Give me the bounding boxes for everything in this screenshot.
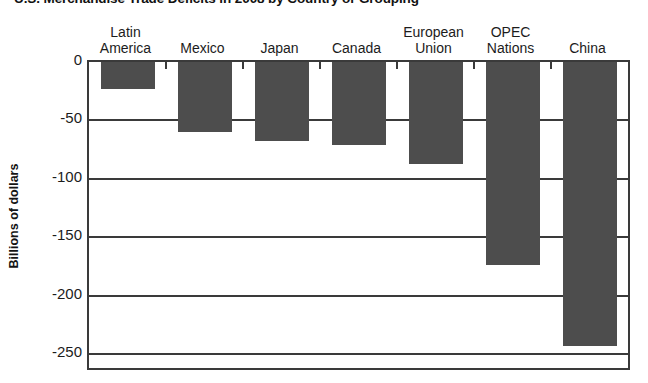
x-axis-tick (242, 62, 244, 69)
plot-area (87, 60, 630, 370)
y-tick-label: -50 (10, 110, 82, 125)
y-tick-label: 0 (10, 52, 82, 67)
category-label: Mexico (164, 41, 241, 57)
bar (255, 62, 309, 141)
bar (332, 62, 386, 145)
y-axis-tick-labels: 0-50-100-150-200-250 (8, 0, 82, 383)
x-axis-tick (473, 62, 475, 69)
x-axis-tick (319, 62, 321, 69)
category-label: China (549, 41, 626, 57)
y-tick-label: -250 (10, 344, 82, 359)
gridline (89, 178, 628, 180)
x-axis-tick (550, 62, 552, 69)
x-axis-category-labels: Latin AmericaMexicoJapanCanadaEuropean U… (87, 12, 630, 58)
x-axis-tick (165, 62, 167, 69)
chart-title: U.S. Merchandise Trade Deficits in 2008 … (14, 0, 634, 9)
bar (101, 62, 155, 89)
bar (409, 62, 463, 164)
category-label: Japan (241, 41, 318, 57)
gridline (89, 353, 628, 355)
category-label: Latin America (87, 25, 164, 56)
bar (486, 62, 540, 265)
y-tick-label: -100 (10, 169, 82, 184)
bar-chart-figure: U.S. Merchandise Trade Deficits in 2008 … (0, 0, 648, 383)
category-label: OPEC Nations (472, 25, 549, 56)
category-label: European Union (395, 25, 472, 56)
y-tick-label: -200 (10, 286, 82, 301)
gridline (89, 236, 628, 238)
category-label: Canada (318, 41, 395, 57)
gridline (89, 295, 628, 297)
bar (563, 62, 617, 346)
bar (178, 62, 232, 132)
y-tick-label: -150 (10, 227, 82, 242)
x-axis-tick (396, 62, 398, 69)
